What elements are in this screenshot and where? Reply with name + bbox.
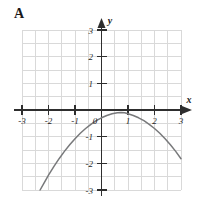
y-axis-label: y [107,15,113,26]
x-axis-arrowhead [182,106,192,114]
y-axis-arrowhead [98,18,106,28]
coordinate-plane: -3 -2 -1 0 1 2 3 3 2 1 -1 -2 -3 x y [0,0,200,207]
x-tick-label: -1 [71,116,79,126]
x-axis-label: x [186,94,192,105]
y-tick-label: 1 [89,79,94,89]
x-tick-label: 1 [126,116,131,126]
y-tick-label: 3 [88,26,94,36]
x-tick-label: 2 [152,116,157,126]
x-tick-label: 3 [178,116,184,126]
parabola-curve [40,112,181,190]
axes [14,18,192,196]
x-tick-label: -3 [18,116,26,126]
x-tick-label: -2 [45,116,53,126]
y-tick-label: 2 [89,52,94,62]
y-tick-label: -3 [86,186,94,196]
y-tick-label: -1 [86,132,94,142]
origin-label: 0 [93,116,98,126]
y-tick-label: -2 [86,159,94,169]
graph-figure: A [0,0,200,207]
